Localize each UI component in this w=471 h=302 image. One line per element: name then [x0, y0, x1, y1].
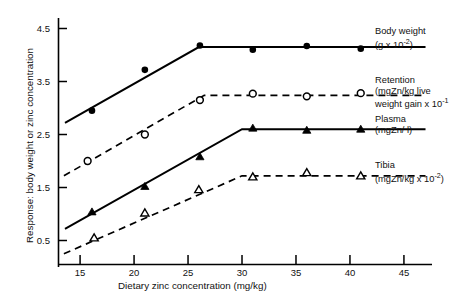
data-series-layer [64, 42, 426, 254]
legend-unit: (mgZn/ l) [375, 125, 412, 136]
legend-unit: (mgZn/kg x 10-2) [375, 171, 444, 185]
legend-title: Tibia [375, 160, 444, 171]
x-tick-label-15: 15 [65, 267, 95, 278]
figure-container: Response: body weight or zinc concentrat… [0, 0, 471, 302]
y-tick-label-1-5: 1.5 [26, 182, 50, 193]
series-retention [64, 90, 426, 176]
x-tick-marks [80, 255, 404, 265]
y-tick-label-2-5: 2.5 [26, 129, 50, 140]
axes-group [59, 18, 433, 267]
legend-title: Plasma [375, 114, 412, 125]
x-tick-label-30: 30 [227, 267, 257, 278]
legend-item-body-weight: Body weight(g x 10-2) [375, 26, 426, 50]
legend-unit: (g x 10-2) [375, 37, 426, 51]
y-axis-label: Response: body weight or zinc concentrat… [24, 21, 35, 271]
series-tibia [64, 169, 426, 254]
legend-item-tibia: Tibia(mgZn/kg x 10-2) [375, 160, 444, 184]
y-tick-label-4-5: 4.5 [26, 23, 50, 34]
x-tick-label-35: 35 [281, 267, 311, 278]
y-tick-marks [59, 29, 68, 241]
legend-item-plasma: Plasma(mgZn/ l) [375, 114, 412, 135]
x-tick-label-20: 20 [119, 267, 149, 278]
x-tick-label-40: 40 [335, 267, 365, 278]
y-tick-label-0-5: 0.5 [26, 235, 50, 246]
legend-title: Body weight [375, 26, 426, 37]
series-body-weight [65, 42, 426, 123]
x-tick-label-25: 25 [173, 267, 203, 278]
x-axis-label: Dietary zinc concentration (mg/kg) [118, 280, 267, 291]
y-tick-label-3-5: 3.5 [26, 76, 50, 87]
legend-title: Retention [375, 75, 449, 86]
legend-item-retention: Retention(mgZn/kg liveweight gain x 10-1 [375, 75, 449, 110]
legend-unit: (mgZn/kg liveweight gain x 10-1 [375, 86, 449, 110]
x-tick-label-45: 45 [389, 267, 419, 278]
